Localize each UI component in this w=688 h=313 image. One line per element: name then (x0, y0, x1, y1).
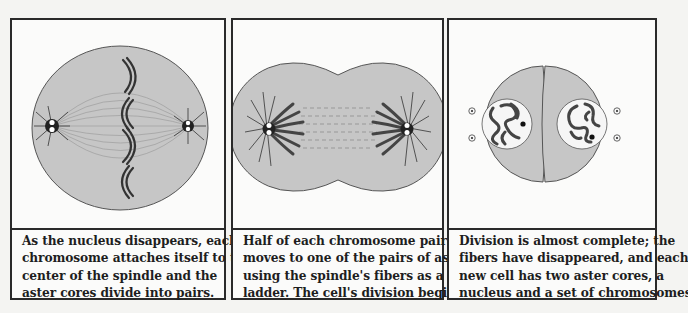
aster-cores-right (614, 108, 620, 141)
caption-line: chromosome attaches itself to the (22, 250, 224, 267)
caption-line: new cell has two aster cores, a (459, 268, 655, 285)
aster-core-right (405, 123, 410, 128)
panel-anaphase: Half of each chromosome pair moves to on… (231, 18, 444, 300)
caption-line: aster cores divide into pairs. (22, 285, 224, 302)
metaphase-diagram (12, 20, 224, 228)
caption-line: nucleus and a set of chromosomes. (459, 285, 655, 302)
anaphase-diagram (233, 20, 442, 228)
panel-metaphase: As the nucleus disappears, each chromoso… (10, 18, 226, 300)
caption-metaphase: As the nucleus disappears, each chromoso… (12, 230, 224, 298)
metaphase-illustration (12, 20, 224, 230)
daughter-cell-left (469, 66, 546, 182)
telophase-diagram (449, 20, 655, 228)
caption-anaphase: Half of each chromosome pair moves to on… (233, 230, 442, 298)
aster-core-left (267, 123, 272, 128)
caption-telophase: Division is almost complete; the fibers … (449, 230, 655, 298)
caption-line: As the nucleus disappears, each (22, 233, 224, 250)
caption-line: Division is almost complete; the (459, 233, 655, 250)
caption-line: fibers have disappeared, and each (459, 250, 655, 267)
caption-line: ladder. The cell's division begins. (243, 285, 442, 302)
panel-telophase: Division is almost complete; the fibers … (447, 18, 657, 300)
caption-line: Half of each chromosome pair (243, 233, 442, 250)
nucleus-right (557, 99, 607, 149)
anaphase-illustration (233, 20, 442, 230)
daughter-cell-right (542, 66, 620, 182)
telophase-illustration (449, 20, 655, 230)
caption-line: using the spindle's fibers as a (243, 268, 442, 285)
caption-line: moves to one of the pairs of asters, (243, 250, 442, 267)
caption-line: center of the spindle and the (22, 268, 224, 285)
aster-cores-left (469, 108, 475, 141)
